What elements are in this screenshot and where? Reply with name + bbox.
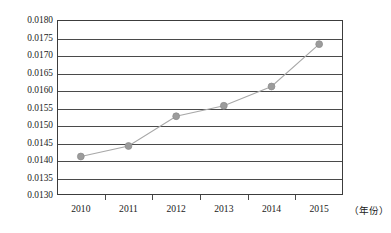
x-axis-tick-mark xyxy=(105,195,106,200)
x-axis-tick-mark xyxy=(152,195,153,200)
line-chart: 0.01800.01750.01700.01650.01600.01550.01… xyxy=(0,0,391,233)
x-axis-tick-label: 2010 xyxy=(71,203,90,214)
x-axis-tick-label: 2015 xyxy=(310,203,329,214)
x-axis-title: （年份） xyxy=(349,203,389,217)
x-axis-tick-label: 2014 xyxy=(262,203,281,214)
x-axis-tick-labels: 201020112012201320142015 xyxy=(0,0,391,233)
x-axis-tick-mark xyxy=(248,195,249,200)
x-axis-tick-label: 2012 xyxy=(167,203,186,214)
x-axis-tick-mark xyxy=(295,195,296,200)
x-axis-tick-label: 2013 xyxy=(214,203,233,214)
x-axis-tick-label: 2011 xyxy=(119,203,138,214)
x-axis-tick-mark xyxy=(200,195,201,200)
